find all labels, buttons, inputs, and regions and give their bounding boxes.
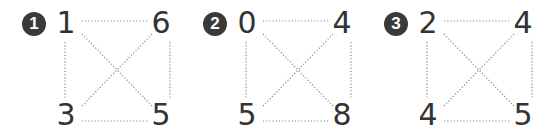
- corner-number-bottom-left: 5: [235, 100, 259, 130]
- corner-number-bottom-right: 5: [149, 100, 173, 130]
- corner-number-top-left: 2: [416, 8, 440, 38]
- corner-number-top-right: 4: [511, 8, 535, 38]
- corner-number-top-left: 0: [235, 8, 259, 38]
- problem-3: 3 2 4 4 5: [362, 0, 545, 136]
- corner-number-bottom-left: 3: [54, 100, 78, 130]
- corner-number-bottom-left: 4: [416, 100, 440, 130]
- corner-number-bottom-right: 5: [511, 100, 535, 130]
- corner-number-top-left: 1: [54, 8, 78, 38]
- problem-2: 2 0 4 5 8: [181, 0, 364, 136]
- problem-1: 1 1 6 3 5: [0, 0, 183, 136]
- corner-number-bottom-right: 8: [330, 100, 354, 130]
- corner-number-top-right: 4: [330, 8, 354, 38]
- corner-number-top-right: 6: [149, 8, 173, 38]
